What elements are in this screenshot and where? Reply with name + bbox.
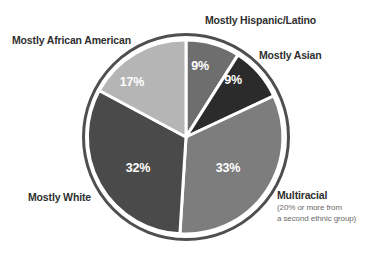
pie-label-mostly-white: Mostly White bbox=[28, 192, 91, 204]
pie-label-multiracial-sub-line2: a second ethnic group) bbox=[277, 214, 356, 224]
pie-label-mostly-african-american: Mostly African American bbox=[12, 35, 131, 47]
pie-value-multiracial: 33% bbox=[216, 161, 241, 175]
pie-slices bbox=[87, 40, 283, 234]
pie-value-mostly-white: 32% bbox=[126, 161, 151, 175]
pie-value-mostly-asian: 9% bbox=[224, 73, 242, 87]
pie-value-mostly-hispanic-latino: 9% bbox=[191, 59, 209, 73]
pie-label-multiracial-sub-line1: (20% or more from bbox=[277, 203, 356, 213]
pie-value-mostly-african-american: 17% bbox=[120, 75, 145, 89]
pie-label-multiracial: Multiracial (20% or more from a second e… bbox=[277, 190, 356, 224]
pie-label-mostly-asian: Mostly Asian bbox=[259, 50, 322, 62]
pie-label-multiracial-title: Multiracial bbox=[277, 189, 327, 201]
pie-label-mostly-hispanic-latino: Mostly Hispanic/Latino bbox=[205, 15, 316, 27]
pie-chart-figure: 9% 9% 33% 32% 17% Mostly Hispanic/Latino… bbox=[0, 0, 381, 258]
